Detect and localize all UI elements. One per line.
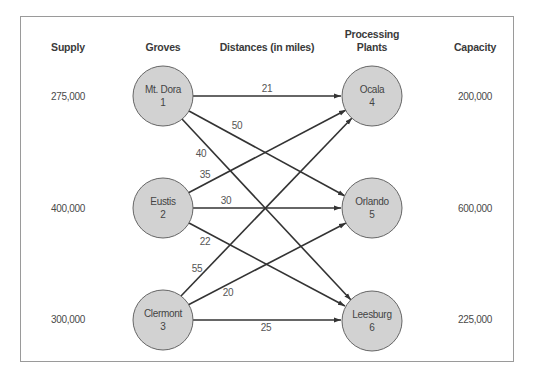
- grove-node-mt-dora: Mt. Dora 1: [133, 66, 193, 126]
- grove-name: Mt. Dora: [145, 84, 182, 95]
- plant-name: Ocala: [360, 84, 385, 95]
- grove-id: 2: [160, 209, 166, 220]
- distance-3-6: 25: [261, 322, 272, 333]
- grove-name: Clermont: [144, 308, 183, 319]
- distance-1-4: 21: [262, 83, 273, 94]
- plant-node-leesburg: Leesburg 6: [342, 291, 402, 351]
- grove-circle: [133, 290, 193, 350]
- plant-name: Leesburg: [352, 309, 391, 320]
- grove-node-clermont: Clermont 3: [133, 290, 193, 350]
- distance-1-6: 40: [196, 148, 207, 159]
- header-capacity: Capacity: [454, 41, 497, 53]
- header-supply: Supply: [51, 41, 85, 53]
- grove-id: 3: [160, 321, 166, 332]
- diagram-frame: [21, 17, 514, 362]
- plant-node-ocala: Ocala 4: [342, 66, 402, 126]
- grove-id: 1: [160, 97, 166, 108]
- grove-name: Eustis: [150, 196, 176, 207]
- edge-1-5: [189, 111, 345, 196]
- plant-name: Orlando: [355, 196, 389, 207]
- distance-2-6: 22: [200, 236, 211, 247]
- transportation-network-diagram: Supply Groves Distances (in miles) Proce…: [0, 0, 535, 377]
- grove-node-eustis: Eustis 2: [133, 178, 193, 238]
- plant-circle: [342, 66, 402, 126]
- plant-id: 4: [369, 97, 375, 108]
- grove-circle: [133, 178, 193, 238]
- header-processing: Processing: [345, 28, 400, 40]
- capacity-leesburg: 225,000: [458, 314, 493, 325]
- distance-3-5: 20: [223, 287, 234, 298]
- plant-circle: [342, 291, 402, 351]
- capacity-ocala: 200,000: [458, 91, 493, 102]
- plant-node-orlando: Orlando 5: [342, 178, 402, 238]
- supply-eustis: 400,000: [51, 203, 86, 214]
- header-groves: Groves: [146, 41, 181, 53]
- header-distances: Distances (in miles): [220, 41, 315, 53]
- distance-3-4: 55: [192, 263, 203, 274]
- header-plants: Plants: [357, 41, 388, 53]
- grove-circle: [133, 66, 193, 126]
- distance-2-5: 30: [221, 195, 232, 206]
- plant-id: 5: [369, 209, 375, 220]
- distance-1-5: 50: [232, 120, 243, 131]
- supply-clermont: 300,000: [51, 314, 86, 325]
- plant-id: 6: [369, 322, 375, 333]
- supply-mt-dora: 275,000: [51, 91, 86, 102]
- distance-2-4: 35: [200, 169, 211, 180]
- capacity-orlando: 600,000: [458, 203, 493, 214]
- edges: [181, 96, 352, 320]
- plant-circle: [342, 178, 402, 238]
